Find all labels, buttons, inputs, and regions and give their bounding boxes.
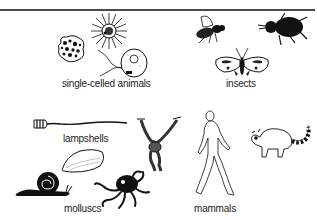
octopus-icon bbox=[93, 170, 153, 210]
human-icon bbox=[192, 110, 234, 198]
top-rule bbox=[0, 9, 315, 11]
gibbon-icon bbox=[133, 117, 183, 173]
label-molluscs: molluscs bbox=[64, 203, 101, 214]
label-insects: insects bbox=[226, 78, 256, 89]
radiolarian-icon bbox=[90, 12, 128, 50]
lampshell-icon bbox=[33, 118, 128, 130]
lemur-icon bbox=[248, 123, 312, 159]
label-mammals: mammals bbox=[194, 203, 236, 214]
label-lampshells: lampshells bbox=[63, 133, 108, 144]
beetle-icon bbox=[255, 13, 309, 47]
label-single-celled-animals: single-celled animals bbox=[62, 78, 151, 89]
snail-icon bbox=[14, 170, 74, 198]
moth-icon bbox=[214, 46, 270, 80]
amoeba-icon bbox=[55, 33, 87, 65]
flagellate-icon bbox=[96, 46, 150, 80]
fly-icon bbox=[191, 13, 227, 47]
